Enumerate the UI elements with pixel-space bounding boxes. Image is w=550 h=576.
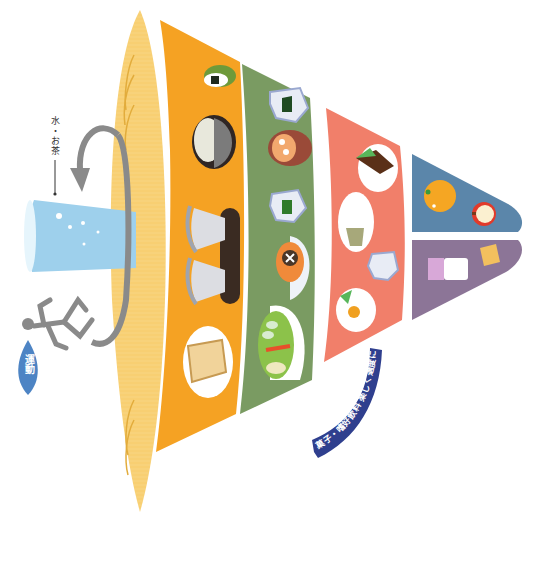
orange-icon — [424, 180, 456, 212]
natto-icon — [368, 252, 398, 280]
onigiri-icon — [204, 65, 236, 87]
water-glass-icon — [24, 200, 136, 272]
fried-egg-icon — [336, 288, 376, 332]
udon-bowl-icon — [192, 115, 236, 169]
food-guide-diagram: 菓子・嗜好飲料 楽しく適度に — [0, 0, 550, 576]
meat-fish-section — [324, 108, 405, 362]
vegetables-section — [240, 64, 315, 414]
miso-soup-icon — [268, 130, 312, 166]
fruits-section — [412, 154, 522, 232]
tofu-dish-icon — [338, 192, 374, 252]
running-figure-icon — [22, 300, 92, 348]
water-tea-label: 水・お茶 — [49, 116, 62, 156]
apple-icon — [472, 202, 496, 226]
grains-section — [156, 20, 244, 452]
exercise-label: 運動 — [21, 354, 36, 374]
snacks-ribbon: 菓子・嗜好飲料 楽しく適度に — [312, 348, 382, 458]
dairy-section — [412, 240, 522, 320]
milk-icon — [428, 258, 468, 280]
bread-icon — [183, 326, 233, 398]
